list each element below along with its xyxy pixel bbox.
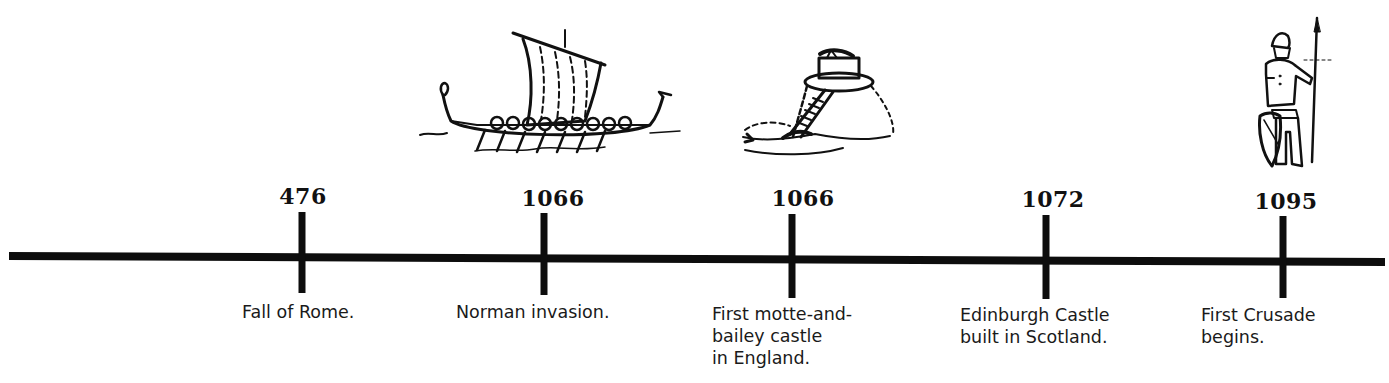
year-label-1066-norman: 1066 — [521, 185, 584, 211]
viking-longship-icon — [415, 25, 685, 160]
year-label-1066-castle: 1066 — [771, 185, 834, 211]
year-label-476: 476 — [279, 183, 326, 209]
crusader-knight-icon — [1252, 14, 1332, 174]
year-label-1095: 1095 — [1254, 188, 1317, 214]
event-label-first-crusade: First Crusade begins. — [1201, 304, 1316, 348]
event-label-edinburgh-castle: Edinburgh Castle built in Scotland. — [960, 304, 1110, 348]
event-label-norman-invasion: Norman invasion. — [456, 301, 609, 323]
timeline-diagram: 476 1066 1066 1072 1095 Fall of Rome. No… — [0, 0, 1389, 383]
event-label-fall-of-rome: Fall of Rome. — [242, 301, 354, 323]
timeline-line — [9, 256, 1385, 262]
event-label-motte-and-bailey: First motte-and- bailey castle in Englan… — [712, 303, 852, 369]
motte-and-bailey-castle-icon — [735, 42, 900, 160]
timeline-axis — [0, 0, 1389, 383]
year-label-1072: 1072 — [1021, 186, 1084, 212]
